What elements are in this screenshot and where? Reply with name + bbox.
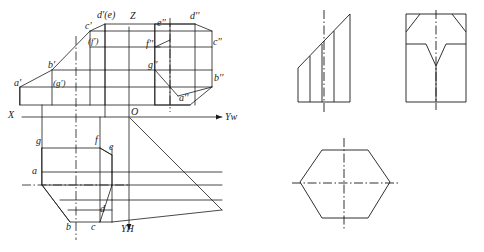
side-view-diag-1 <box>155 70 178 96</box>
label-f-plan: f <box>95 135 98 145</box>
main-projection-figure: a' b' (g') c' (f') d'(e) Z e'' d'' f'' c… <box>0 0 246 252</box>
label-b-prime: b' <box>48 60 55 70</box>
right-top-view-svg <box>290 136 400 236</box>
label-a-prime: a' <box>14 78 21 88</box>
mitre-line-45 <box>130 118 222 210</box>
right-front-view-svg <box>288 10 388 115</box>
label-g-double-prime: g'' <box>148 60 157 70</box>
label-c-prime: c' <box>85 21 92 31</box>
label-g-plan: g <box>36 136 41 146</box>
label-b-double-prime: b'' <box>214 73 223 83</box>
side-view-diag-3 <box>155 40 170 47</box>
diagram-page: a' b' (g') c' (f') d'(e) Z e'' d'' f'' c… <box>0 0 484 252</box>
right-side-top-right-diag <box>452 14 466 32</box>
right-side-top-left-diag <box>406 14 420 32</box>
label-e-double-prime: e'' <box>157 18 166 28</box>
label-yw-axis: Yw <box>225 112 237 122</box>
label-yh-axis: YH <box>121 224 134 234</box>
right-top-view-figure <box>290 136 400 236</box>
label-d-e-prime: d'(e) <box>97 10 115 20</box>
main-projection-svg <box>0 0 246 252</box>
label-f-double-prime: f'' <box>146 39 153 49</box>
label-z-axis: Z <box>130 11 136 21</box>
label-a-plan: a <box>32 166 37 176</box>
arrow-yw <box>216 115 222 120</box>
label-x-axis: X <box>8 110 14 120</box>
right-top-hexagon <box>300 150 390 218</box>
label-d-double-prime: d'' <box>190 11 199 21</box>
right-side-view-figure <box>398 10 484 115</box>
label-b-plan: b <box>66 222 71 232</box>
label-f-prime: (f') <box>88 37 98 46</box>
label-e-plan: e <box>109 142 113 152</box>
label-origin: O <box>131 107 138 117</box>
right-side-view-svg <box>398 10 484 115</box>
label-c-double-prime: c'' <box>213 37 222 47</box>
top-view-diag-6 <box>112 210 222 222</box>
top-view-diag-3 <box>42 185 70 222</box>
label-c-plan: c <box>91 222 95 232</box>
right-front-view-figure <box>288 10 388 115</box>
label-g-prime: (g') <box>53 79 65 88</box>
label-d-plan: d <box>100 204 105 214</box>
label-a-double-prime: a'' <box>179 93 188 103</box>
